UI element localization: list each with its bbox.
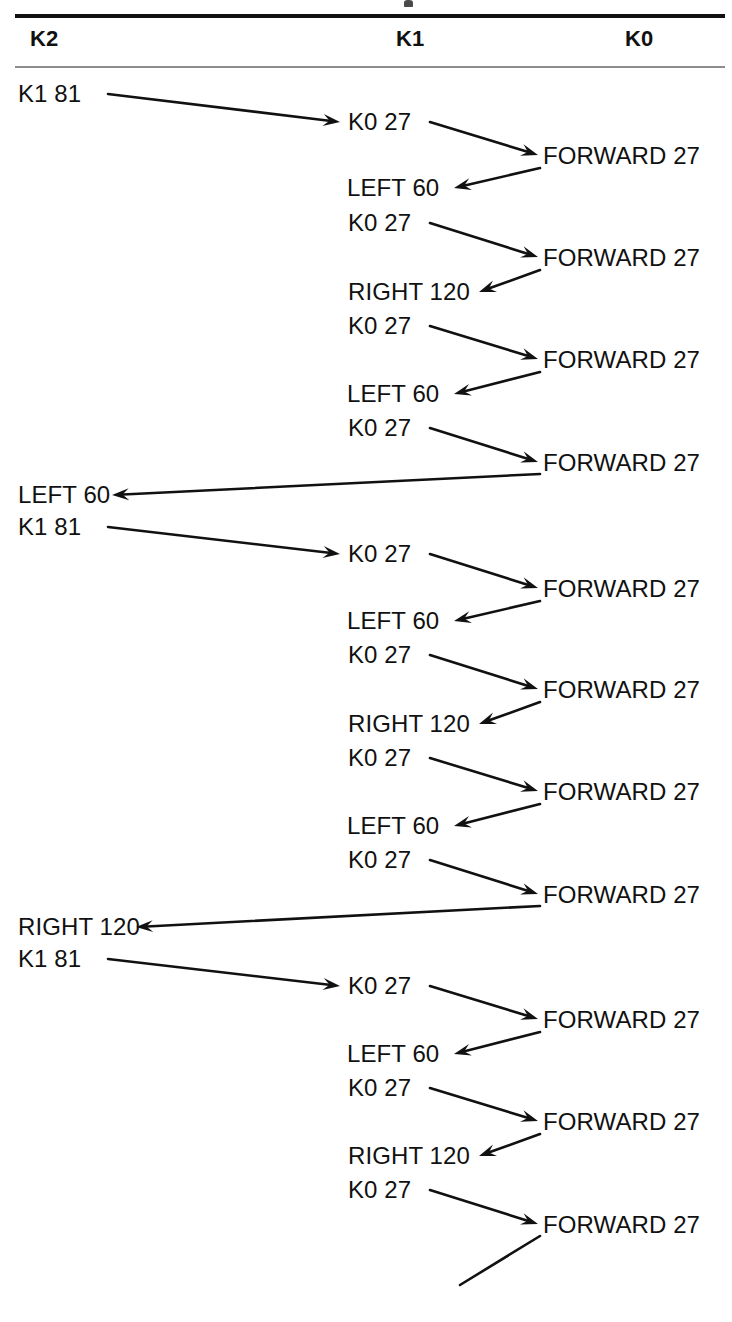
trace-arrow <box>112 474 540 500</box>
trace-node-k2: K1 81 <box>18 515 81 539</box>
trace-node-k2: K1 81 <box>18 947 81 971</box>
trace-arrow <box>430 554 538 589</box>
column-header-k2: K2 <box>30 26 59 52</box>
arrowhead-icon <box>479 1145 497 1156</box>
trace-arrow <box>430 655 538 690</box>
arrowhead-icon <box>520 678 538 689</box>
column-header-k0: K0 <box>625 26 654 52</box>
arrowhead-icon <box>520 1008 538 1019</box>
trace-node-k1: K0 27 <box>348 1178 411 1202</box>
trace-node-k1: K0 27 <box>348 416 411 440</box>
trace-node-k1: LEFT 60 <box>347 814 439 838</box>
trace-arrow <box>454 1032 540 1056</box>
arrowhead-icon <box>322 114 340 126</box>
trace-node-k1: LEFT 60 <box>347 176 439 200</box>
arrowhead-icon <box>520 451 538 462</box>
trace-node-k1: K0 27 <box>348 110 411 134</box>
column-header-k1: K1 <box>396 26 425 52</box>
arrowhead-icon <box>520 577 538 588</box>
trace-arrow <box>479 1134 540 1156</box>
trace-arrow <box>454 372 540 396</box>
trace-arrow <box>430 1190 538 1225</box>
trace-node-k1: RIGHT 120 <box>348 712 470 736</box>
trace-node-k1: K0 27 <box>348 1076 411 1100</box>
trace-arrow <box>136 906 540 932</box>
arrowhead-icon <box>112 488 129 500</box>
trace-arrow <box>454 168 540 190</box>
trace-arrow <box>479 270 540 292</box>
trace-node-k1: LEFT 60 <box>347 609 439 633</box>
trace-arrow <box>430 428 538 463</box>
trace-node-k1: LEFT 60 <box>347 382 439 406</box>
arrowhead-icon <box>520 780 538 791</box>
trace-arrow <box>454 804 540 828</box>
trace-node-k0: FORWARD 27 <box>543 678 700 702</box>
trace-node-k2: K1 81 <box>18 82 81 106</box>
arrowhead-icon <box>520 1110 538 1121</box>
trace-arrow <box>430 122 538 156</box>
trace-arrow <box>108 94 340 126</box>
trace-arrow <box>430 326 538 360</box>
trace-node-k0: FORWARD 27 <box>543 348 700 372</box>
trace-arrow <box>460 1236 540 1285</box>
header-rule-top <box>15 14 725 18</box>
trace-node-k2: LEFT 60 <box>18 483 110 507</box>
trace-node-k0: FORWARD 27 <box>543 577 700 601</box>
arrowhead-icon <box>322 978 340 990</box>
arrowhead-icon <box>454 816 472 828</box>
arrowhead-icon <box>454 384 472 396</box>
diagram-page: K2 K1 K0 K1 81K0 27FORWARD 27LEFT 60K0 2… <box>0 0 732 1322</box>
arrowhead-icon <box>479 281 497 292</box>
arrowhead-icon <box>454 611 472 623</box>
trace-node-k0: FORWARD 27 <box>543 780 700 804</box>
arrowhead-icon <box>454 178 472 190</box>
trace-node-k0: FORWARD 27 <box>543 1110 700 1134</box>
trace-node-k0: FORWARD 27 <box>543 1213 700 1237</box>
arrowhead-icon <box>520 246 538 257</box>
trace-node-k0: FORWARD 27 <box>543 144 700 168</box>
trace-node-k0: FORWARD 27 <box>543 451 700 475</box>
arrowhead-icon <box>479 713 497 724</box>
stray-ink-mark <box>404 0 413 7</box>
trace-node-k1: RIGHT 120 <box>348 280 470 304</box>
trace-node-k0: FORWARD 27 <box>543 883 700 907</box>
trace-node-k1: RIGHT 120 <box>348 1144 470 1168</box>
trace-arrow <box>454 601 540 623</box>
trace-arrow <box>430 758 538 792</box>
arrowhead-icon <box>520 348 538 359</box>
arrowhead-icon <box>520 144 538 155</box>
trace-node-k1: K0 27 <box>348 643 411 667</box>
trace-node-k2: RIGHT 120 <box>18 915 140 939</box>
trace-node-k1: K0 27 <box>348 211 411 235</box>
header-rule-bottom <box>15 66 725 68</box>
arrowhead-icon <box>322 546 340 558</box>
trace-node-k1: K0 27 <box>348 974 411 998</box>
arrowhead-icon <box>520 1213 538 1224</box>
arrowhead-icon <box>454 1044 472 1056</box>
arrowhead-icon <box>520 883 538 894</box>
trace-node-k1: K0 27 <box>348 746 411 770</box>
trace-arrow <box>479 702 540 724</box>
trace-node-k1: LEFT 60 <box>347 1042 439 1066</box>
trace-node-k0: FORWARD 27 <box>543 246 700 270</box>
trace-arrow <box>430 860 538 895</box>
trace-node-k1: K0 27 <box>348 314 411 338</box>
trace-arrow <box>430 986 538 1020</box>
trace-arrow <box>108 527 340 558</box>
trace-arrow <box>430 223 538 258</box>
trace-arrow <box>108 959 340 990</box>
trace-node-k0: FORWARD 27 <box>543 1008 700 1032</box>
trace-node-k1: K0 27 <box>348 542 411 566</box>
trace-arrow <box>430 1088 538 1122</box>
trace-node-k1: K0 27 <box>348 848 411 872</box>
